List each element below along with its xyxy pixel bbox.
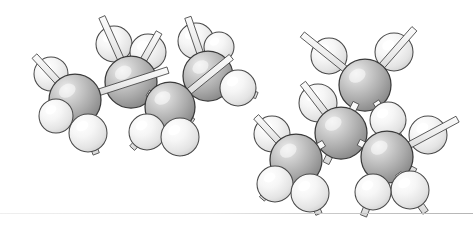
hydrogen-atom-L-H3[interactable] <box>69 114 107 152</box>
molecule-figure <box>0 0 473 226</box>
hydrogen-atom-L-H7[interactable] <box>161 118 199 156</box>
hydrogen-atom-L-H9[interactable] <box>220 70 256 106</box>
hydrogen-atom-R-H9[interactable] <box>355 174 391 210</box>
carbon-atom-R-C2[interactable] <box>315 107 367 159</box>
hydrogen-atom-R-H7[interactable] <box>291 174 329 212</box>
hydrogen-atom-L-H2[interactable] <box>39 99 73 133</box>
hydrogen-atom-L-H6[interactable] <box>129 114 165 150</box>
hydrogen-atom-R-H10[interactable] <box>391 171 429 209</box>
molecule-canvas <box>0 0 473 226</box>
hydrogen-atom-R-H6[interactable] <box>257 166 293 202</box>
